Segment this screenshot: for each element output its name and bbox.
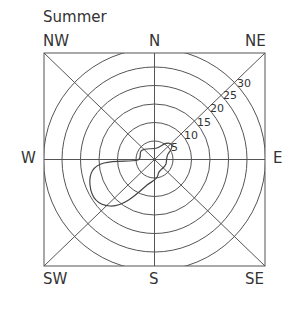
svg-text:15: 15: [197, 116, 211, 129]
svg-text:20: 20: [210, 102, 224, 115]
wind-rose-chart: 5 10 15 20 25 30: [0, 0, 290, 310]
ring-label-5: 5: [171, 141, 178, 154]
ring-labels: 5 10 15 20 25 30: [171, 77, 251, 154]
svg-text:25: 25: [223, 89, 237, 102]
svg-text:10: 10: [184, 129, 198, 142]
svg-text:30: 30: [237, 77, 251, 90]
grid: [44, 49, 266, 271]
